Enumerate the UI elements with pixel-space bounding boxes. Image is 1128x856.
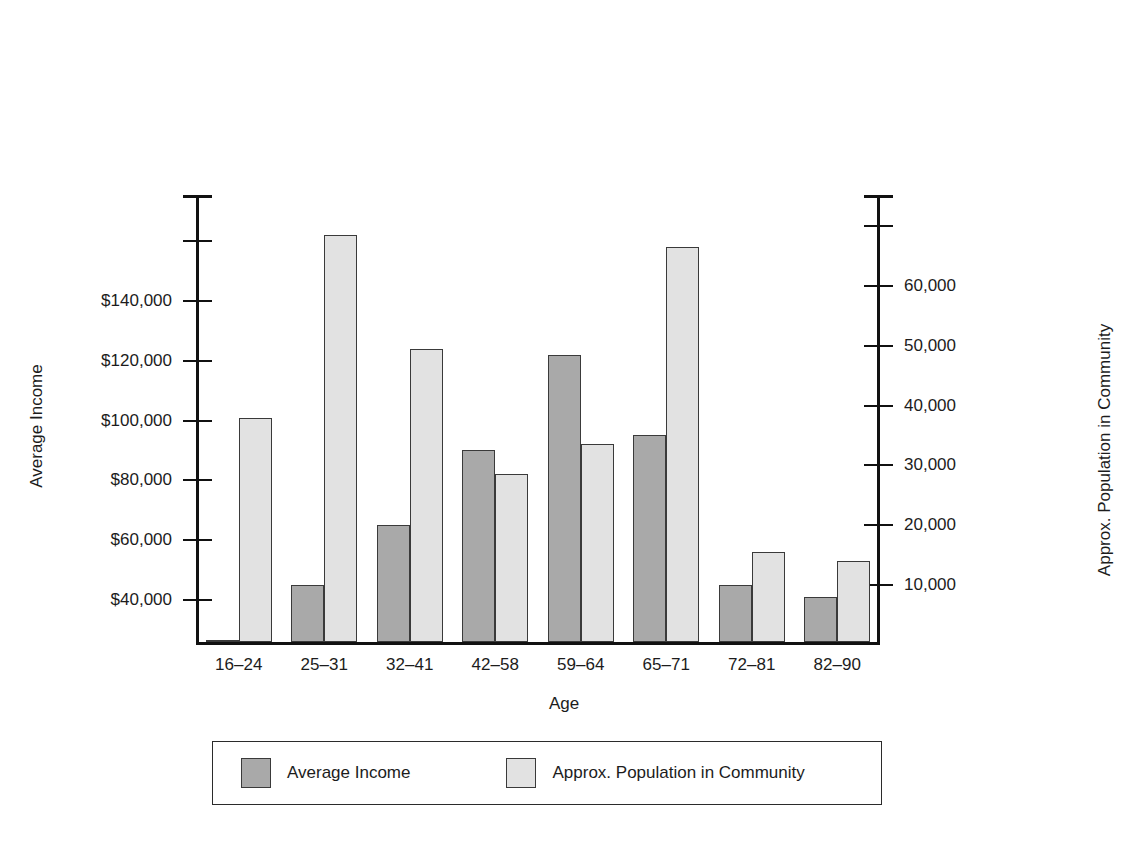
bar-approx-population[interactable]: [837, 561, 870, 642]
y-axis-right-tick-label: 20,000: [904, 516, 956, 533]
y-axis-right-tick-label: 60,000: [904, 277, 956, 294]
x-axis-tick-label: 16–24: [196, 655, 282, 675]
x-axis-title: Age: [0, 694, 1128, 714]
bar-group: [709, 196, 795, 642]
chart-canvas: Average Income Approx. Population in Com…: [0, 0, 1128, 856]
bar-group: [453, 196, 539, 642]
x-axis-tick-label: 65–71: [624, 655, 710, 675]
bar-average-income[interactable]: [377, 525, 410, 642]
bar-groups: [196, 196, 880, 642]
bar-approx-population[interactable]: [666, 247, 699, 642]
bar-group: [624, 196, 710, 642]
bar-average-income[interactable]: [206, 640, 239, 642]
x-axis-tick-label: 25–31: [282, 655, 368, 675]
x-axis-spine: [196, 642, 880, 645]
y-axis-right-tick-label: 50,000: [904, 337, 956, 354]
income-swatch-icon: [241, 758, 271, 788]
y-axis-left-tick-label: $80,000: [111, 471, 172, 488]
bar-approx-population[interactable]: [239, 418, 272, 643]
y-axis-left-tick-label: $40,000: [111, 591, 172, 608]
legend-item-approx-population: Approx. Population in Community: [506, 758, 804, 788]
bar-average-income[interactable]: [462, 450, 495, 642]
bar-average-income[interactable]: [804, 597, 837, 642]
y-axis-right-tick-label: 40,000: [904, 397, 956, 414]
bar-approx-population[interactable]: [410, 349, 443, 642]
legend-item-average-income: Average Income: [241, 758, 410, 788]
bar-group: [282, 196, 368, 642]
bar-approx-population[interactable]: [752, 552, 785, 642]
y-axis-right-tick-label: 30,000: [904, 456, 956, 473]
y-axis-left-tick-label: $100,000: [101, 412, 172, 429]
bar-group: [367, 196, 453, 642]
bar-average-income[interactable]: [633, 435, 666, 642]
y-axis-title-left: Average Income: [27, 331, 47, 521]
x-axis-tick-label: 42–58: [453, 655, 539, 675]
bar-group: [795, 196, 881, 642]
x-axis-tick-label: 32–41: [367, 655, 453, 675]
y-axis-right-tick-label: 10,000: [904, 576, 956, 593]
x-axis-tick-label: 82–90: [795, 655, 881, 675]
x-axis-tick-label: 59–64: [538, 655, 624, 675]
bar-group: [538, 196, 624, 642]
bar-group: [196, 196, 282, 642]
bar-approx-population[interactable]: [495, 474, 528, 642]
bar-approx-population[interactable]: [581, 444, 614, 642]
chart-legend: Average Income Approx. Population in Com…: [212, 741, 882, 805]
bar-average-income[interactable]: [719, 585, 752, 642]
bar-approx-population[interactable]: [324, 235, 357, 642]
plot-area: $40,000$60,000$80,000$100,000$120,000$14…: [196, 196, 880, 645]
bar-average-income[interactable]: [291, 585, 324, 642]
x-axis-tick-label: 72–81: [709, 655, 795, 675]
y-axis-left-tick-label: $60,000: [111, 531, 172, 548]
bar-average-income[interactable]: [548, 355, 581, 642]
y-axis-left-tick-label: $120,000: [101, 352, 172, 369]
y-axis-title-right: Approx. Population in Community: [1095, 285, 1115, 615]
legend-label-approx-population: Approx. Population in Community: [552, 763, 804, 783]
population-swatch-icon: [506, 758, 536, 788]
legend-label-average-income: Average Income: [287, 763, 410, 783]
y-axis-left-tick-label: $140,000: [101, 292, 172, 309]
